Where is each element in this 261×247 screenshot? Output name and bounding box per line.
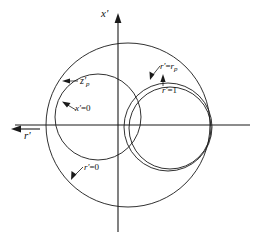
annotation-label-r1-equals: =1: [167, 85, 177, 95]
annotation-label-x0-equals: =0: [81, 103, 91, 113]
leader-zp-arrowhead: [62, 79, 70, 84]
curve-x-prime-equals-zero: [55, 74, 141, 160]
annotation-leaders-group: [62, 66, 166, 180]
vertical-axis-arrowhead: [115, 13, 122, 23]
leader-x0-arrowhead: [62, 102, 71, 108]
annotation-label-rp-subscript: p: [174, 65, 178, 73]
axis-label-r-prime-text: r': [24, 129, 31, 141]
annotation-label-x0: x′=0: [75, 104, 91, 113]
leader-rp-arrowhead: [150, 72, 155, 81]
annotation-label-r0: r′=0: [84, 163, 99, 172]
annotation-label-zp-subscript: p: [86, 80, 90, 88]
axis-label-x-prime: x': [101, 8, 108, 19]
horizontal-axis-arrowhead: [11, 126, 21, 133]
annotation-label-r1: r′=1: [162, 86, 177, 95]
annotation-label-rp: r′=rp: [160, 62, 178, 73]
axis-label-r-prime: r': [24, 130, 31, 141]
figure-canvas: [0, 0, 261, 247]
annotation-label-r0-equals: =0: [89, 162, 99, 172]
curve-r-prime-equals-one: [129, 87, 211, 169]
axes-group: [11, 13, 250, 232]
leader-r1-arrowhead: [160, 74, 165, 82]
annotation-label-zp: z′p: [80, 76, 90, 88]
axis-label-x-prime-text: x': [101, 7, 108, 19]
leader-r0-arrowhead: [71, 171, 77, 180]
figure-root: x' r' z′p x′=0 r′=rp r′=1 r′=0: [0, 0, 261, 247]
